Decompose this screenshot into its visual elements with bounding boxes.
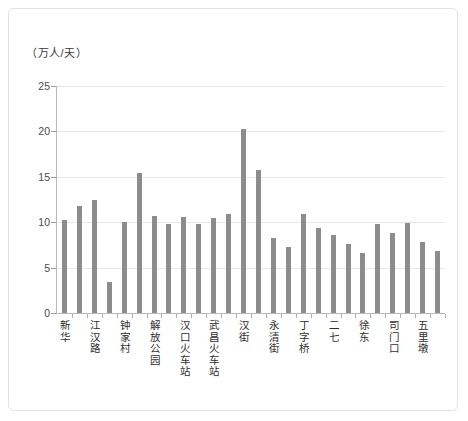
- x-tick-label: 新华: [59, 320, 70, 343]
- x-tick-label: 钟家村: [119, 320, 130, 355]
- x-tick-mark: [266, 314, 267, 318]
- x-tick-label: 五里墩: [417, 320, 428, 355]
- bar: [346, 244, 351, 313]
- bar: [137, 173, 142, 313]
- x-tick-mark: [251, 314, 252, 318]
- bar: [375, 224, 380, 313]
- bar: [286, 247, 291, 313]
- x-tick-mark: [102, 314, 103, 318]
- x-tick-mark: [400, 314, 401, 318]
- bar: [360, 253, 365, 313]
- bar: [122, 222, 127, 313]
- x-tick-label: 丁字桥: [298, 320, 309, 355]
- y-tick-mark: [51, 86, 56, 87]
- bar: [271, 238, 276, 313]
- x-tick-mark: [221, 314, 222, 318]
- x-tick-mark: [385, 314, 386, 318]
- y-tick-label: 20: [38, 125, 50, 137]
- x-tick-mark: [311, 314, 312, 318]
- x-tick-mark: [191, 314, 192, 318]
- x-tick-mark: [355, 314, 356, 318]
- y-axis-tick-labels: 0510152025: [0, 0, 50, 421]
- x-tick-label: 徐东: [358, 320, 369, 343]
- bar: [107, 282, 112, 313]
- y-tick-label: 10: [38, 216, 50, 228]
- x-tick-label: 二七: [328, 320, 339, 343]
- x-tick-mark: [296, 314, 297, 318]
- x-tick-mark: [176, 314, 177, 318]
- x-tick-label: 司门口: [388, 320, 399, 355]
- y-tick-mark: [51, 222, 56, 223]
- x-tick-mark: [415, 314, 416, 318]
- y-tick-label: 25: [38, 80, 50, 92]
- bar: [92, 200, 97, 314]
- x-tick-mark: [132, 314, 133, 318]
- x-tick-mark: [430, 314, 431, 318]
- y-tick-label: 15: [38, 171, 50, 183]
- x-tick-mark: [206, 314, 207, 318]
- bar: [241, 129, 246, 313]
- y-tick-label: 5: [44, 262, 50, 274]
- x-tick-label: 江汉路: [89, 320, 100, 355]
- bar: [405, 223, 410, 313]
- y-tick-mark: [51, 177, 56, 178]
- y-tick-label: 0: [44, 307, 50, 319]
- x-tick-label: 汉口火车站: [179, 320, 190, 378]
- y-tick-mark: [51, 313, 56, 314]
- x-tick-mark: [281, 314, 282, 318]
- bar: [152, 216, 157, 313]
- gridline: [57, 268, 445, 269]
- x-tick-label: 武昌火车站: [208, 320, 219, 378]
- bar-chart: （万人/天） 0510152025 新华江汉路钟家村解放公园汉口火车站武昌火车站…: [0, 0, 468, 421]
- x-tick-mark: [445, 314, 446, 318]
- gridline: [57, 131, 445, 132]
- x-tick-mark: [87, 314, 88, 318]
- bar: [316, 228, 321, 313]
- x-tick-mark: [72, 314, 73, 318]
- x-tick-label: 解放公园: [149, 320, 160, 366]
- x-tick-mark: [147, 314, 148, 318]
- bar: [331, 235, 336, 313]
- x-tick-mark: [117, 314, 118, 318]
- x-tick-mark: [326, 314, 327, 318]
- x-tick-mark: [370, 314, 371, 318]
- bar: [211, 218, 216, 313]
- y-tick-mark: [51, 268, 56, 269]
- bar: [166, 224, 171, 313]
- x-tick-label: 汉街: [238, 320, 249, 343]
- bar: [390, 233, 395, 313]
- bar: [77, 206, 82, 313]
- gridline: [57, 177, 445, 178]
- x-tick-mark: [236, 314, 237, 318]
- bar: [62, 220, 67, 313]
- x-tick-mark: [341, 314, 342, 318]
- bar: [226, 214, 231, 313]
- gridline: [57, 86, 445, 87]
- bar: [196, 224, 201, 313]
- bar: [420, 242, 425, 313]
- bar: [301, 214, 306, 313]
- bar: [256, 170, 261, 313]
- bar: [181, 217, 186, 313]
- bar: [435, 251, 440, 313]
- gridline: [57, 222, 445, 223]
- x-tick-mark: [161, 314, 162, 318]
- plot-area: [57, 86, 445, 313]
- x-tick-label: 永清街: [268, 320, 279, 355]
- y-tick-mark: [51, 131, 56, 132]
